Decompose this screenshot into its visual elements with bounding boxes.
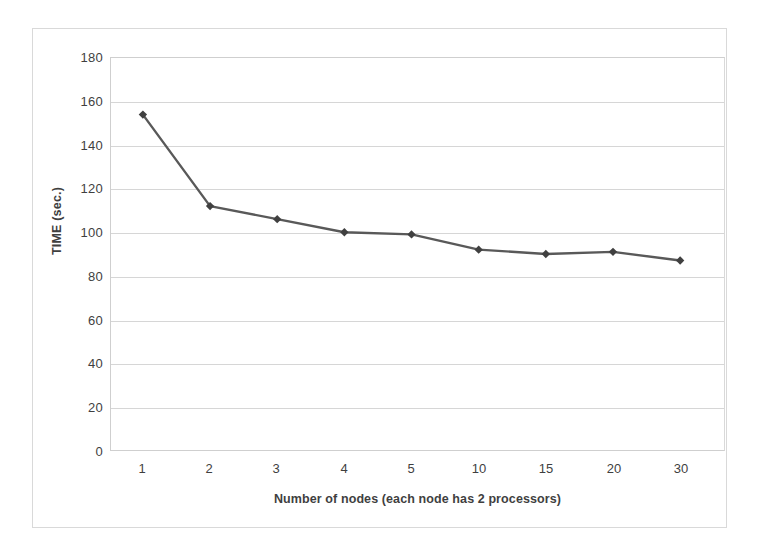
data-point-marker <box>273 215 281 223</box>
y-tick-label: 40 <box>88 356 103 371</box>
y-tick-label: 180 <box>80 50 103 65</box>
y-tick-label: 140 <box>80 137 103 152</box>
data-point-marker <box>340 228 348 236</box>
x-tick-label: 20 <box>607 461 621 476</box>
y-tick-label: 0 <box>95 444 103 459</box>
x-tick-label: 4 <box>340 461 347 476</box>
data-series-line <box>111 58 724 450</box>
data-point-marker <box>676 256 684 264</box>
data-point-marker <box>609 248 617 256</box>
series-polyline <box>143 115 680 261</box>
x-tick-label: 30 <box>674 461 688 476</box>
x-tick-label: 2 <box>205 461 212 476</box>
series-markers <box>139 110 685 264</box>
plot-area <box>110 57 725 451</box>
chart-figure: 180 160 140 120 100 80 60 40 20 0 1 2 3 … <box>32 28 727 528</box>
x-tick-label: 10 <box>472 461 486 476</box>
y-tick-label: 60 <box>88 312 103 327</box>
y-tick-label: 20 <box>88 400 103 415</box>
y-tick-label: 100 <box>80 225 103 240</box>
x-tick-label: 5 <box>407 461 414 476</box>
x-axis-title: Number of nodes (each node has 2 process… <box>110 492 725 506</box>
data-point-marker <box>542 250 550 258</box>
y-tick-label: 80 <box>88 268 103 283</box>
data-point-marker <box>407 230 415 238</box>
y-tick-label: 160 <box>80 93 103 108</box>
y-axis-title: TIME (sec.) <box>50 161 64 281</box>
data-point-marker <box>474 245 482 253</box>
x-tick-label: 1 <box>138 461 145 476</box>
x-axis-tick-labels: 1 2 3 4 5 10 15 20 30 <box>110 461 725 481</box>
x-tick-label: 3 <box>272 461 279 476</box>
x-tick-label: 15 <box>539 461 553 476</box>
y-tick-label: 120 <box>80 181 103 196</box>
